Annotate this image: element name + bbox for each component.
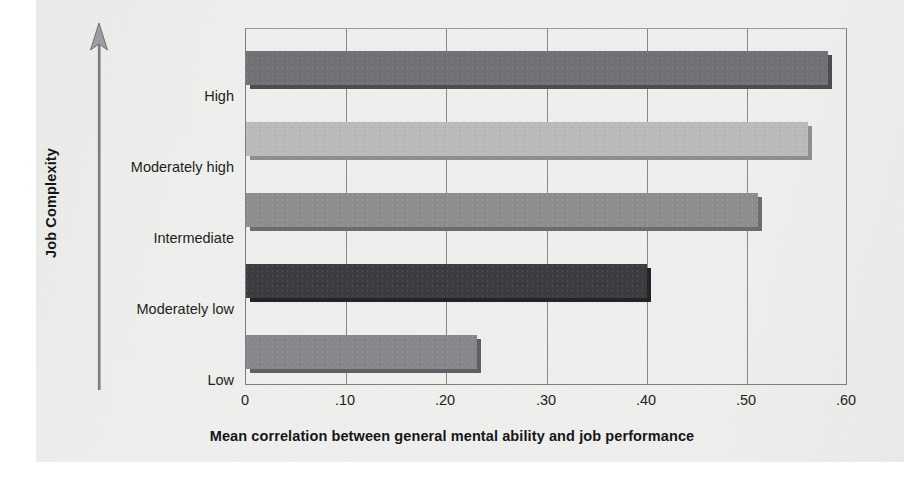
x-tick-label-0.30: .30 xyxy=(536,392,556,408)
x-tick-label-0.60: .60 xyxy=(836,392,856,408)
figure-page: Job Complexity High Moderately high Inte… xyxy=(0,0,904,498)
x-tick-label-0: 0 xyxy=(241,392,249,408)
x-tick-label-0.10: .10 xyxy=(335,392,355,408)
x-axis-title: Mean correlation between general mental … xyxy=(0,428,904,444)
x-axis-tick-labels: 0 .10 .20 .30 .40 .50 .60 xyxy=(0,0,904,498)
x-tick-label-0.20: .20 xyxy=(435,392,455,408)
x-tick-label-0.50: .50 xyxy=(736,392,756,408)
x-tick-label-0.40: .40 xyxy=(636,392,656,408)
